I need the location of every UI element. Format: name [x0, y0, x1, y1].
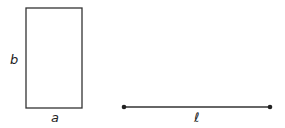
segment-length-label: ℓ: [193, 110, 199, 125]
segment-endpoint-right: [268, 105, 273, 110]
rectangle-height-label: b: [10, 52, 18, 67]
segment-endpoint-left: [122, 105, 127, 110]
rectangle-shape: [26, 8, 82, 108]
diagram-canvas: b a ℓ: [0, 0, 285, 128]
rectangle-width-label: a: [51, 110, 59, 125]
